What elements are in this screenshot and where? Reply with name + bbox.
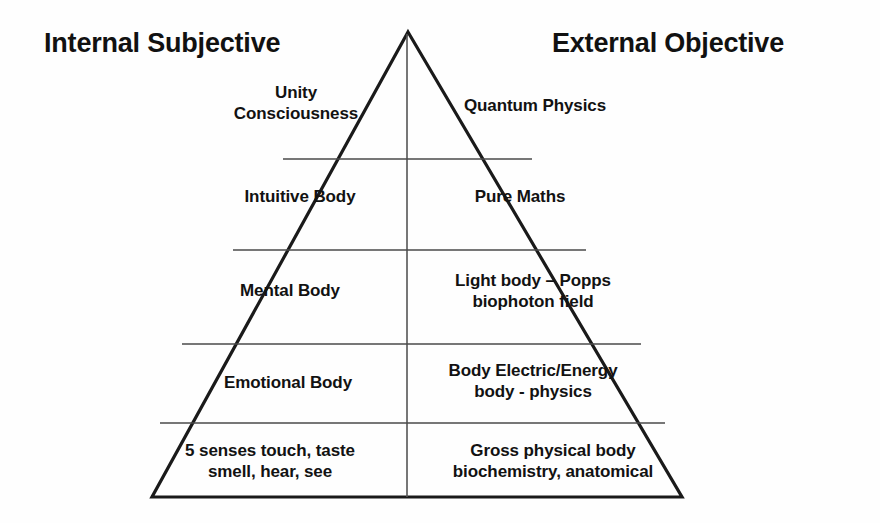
level-1-right-label: Quantum Physics	[420, 95, 650, 116]
level-5-left-label: 5 senses touch, taste smell, hear, see	[140, 440, 400, 482]
level-2-right-label: Pure Maths	[420, 186, 620, 207]
level-3-left-label: Mental Body	[190, 280, 390, 301]
level-3-right-label: Light body – Popps biophoton field	[418, 270, 648, 312]
level-5-right-label: Gross physical body biochemistry, anatom…	[418, 440, 688, 482]
diagram-canvas: Internal Subjective External Objective U…	[0, 0, 880, 523]
level-4-left-label: Emotional Body	[178, 372, 398, 393]
level-1-left-label: Unity Consciousness	[196, 82, 396, 124]
level-4-right-label: Body Electric/Energy body - physics	[418, 360, 648, 402]
level-2-left-label: Intuitive Body	[200, 186, 400, 207]
